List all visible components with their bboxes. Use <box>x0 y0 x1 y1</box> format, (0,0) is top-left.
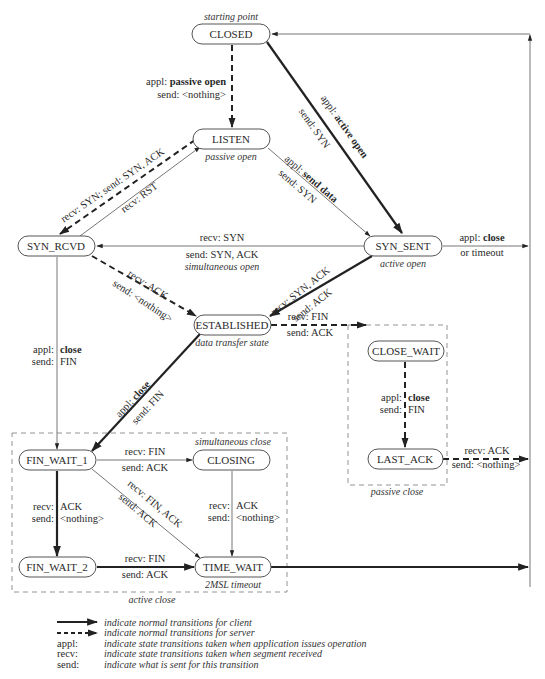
note-simultaneous-close: simultaneous close <box>195 436 271 447</box>
label-synrcvd-finwait1-send-prefix: send: <box>32 356 54 367</box>
label-closewait-lastack-send: FIN <box>408 404 425 415</box>
svg-text:CLOSED: CLOSED <box>210 28 253 40</box>
label-closing-timewait-recv-prefix: recv: <box>209 500 230 511</box>
legend-text-send: indicate what is sent for this transitio… <box>104 659 258 670</box>
state-listen: LISTEN <box>193 129 270 149</box>
label-established-closewait-send: send: ACK <box>287 327 334 338</box>
label-synsent-synrcvd-recv: recv: SYN <box>200 232 245 243</box>
svg-text:ESTABLISHED: ESTABLISHED <box>195 319 268 331</box>
label-finwait1-finwait2-recv-prefix: recv: <box>33 501 54 512</box>
label-synrcvd-finwait1-appl-prefix: appl: <box>33 344 54 355</box>
tcp-state-diagram: CLOSED LISTEN SYN_RCVD SYN_SENT ESTABLIS… <box>0 0 545 679</box>
label-closewait-lastack-appl: close <box>408 392 430 403</box>
legend-key-send: send: <box>57 659 79 670</box>
note-active-close: active close <box>129 594 176 605</box>
label-finwait2-timewait-recv: recv: FIN <box>125 553 166 564</box>
label-synrcvd-listen: recv: RST <box>119 180 160 215</box>
label-closewait-lastack-send-prefix: send: <box>380 404 402 415</box>
label-finwait1-closing-send: send: ACK <box>122 462 169 473</box>
legend: indicate normal transitions for client i… <box>57 617 366 670</box>
label-closewait-lastack-appl-prefix: appl: <box>381 392 402 403</box>
state-closed: CLOSED <box>192 24 270 44</box>
svg-text:FIN_WAIT_2: FIN_WAIT_2 <box>26 561 88 573</box>
label-finwait1-finwait2-send-prefix: send: <box>32 513 54 524</box>
label-finwait1-finwait2-send: <nothing> <box>60 513 104 524</box>
svg-text:CLOSE_WAIT: CLOSE_WAIT <box>372 345 440 357</box>
state-fin-wait-2: FIN_WAIT_2 <box>19 557 96 577</box>
note-starting-point: starting point <box>204 11 258 22</box>
state-established: ESTABLISHED <box>194 315 271 335</box>
state-syn-rcvd: SYN_RCVD <box>18 236 95 256</box>
label-closing-timewait-recv: ACK <box>236 500 259 511</box>
state-last-ack: LAST_ACK <box>368 449 443 469</box>
state-time-wait: TIME_WAIT <box>195 557 271 577</box>
label-closed-listen-appl: appl: passive open <box>146 76 226 87</box>
label-lastack-closed-send: send: <nothing> <box>452 459 521 470</box>
label-closing-timewait-send: <nothing> <box>236 512 280 523</box>
state-syn-sent: SYN_SENT <box>364 236 442 256</box>
svg-text:SYN_RCVD: SYN_RCVD <box>27 240 85 252</box>
label-synrcvd-finwait1-send: FIN <box>60 356 77 367</box>
label-established-closewait-recv: recv: FIN <box>288 311 329 322</box>
svg-text:SYN_SENT: SYN_SENT <box>375 240 430 252</box>
edge-listen-synrcvd <box>60 140 195 234</box>
state-close-wait: CLOSE_WAIT <box>368 341 444 361</box>
edge-closed-synsent <box>267 42 402 233</box>
label-closing-timewait-send-prefix: send: <box>208 512 230 523</box>
label-finwait1-closing-recv: recv: FIN <box>125 446 166 457</box>
label-synsent-synrcvd-send: send: SYN, ACK <box>186 249 259 260</box>
state-closing: CLOSING <box>193 450 270 470</box>
label-synsent-close-extra: or timeout <box>460 247 504 258</box>
svg-text:LAST_ACK: LAST_ACK <box>377 453 433 465</box>
state-fin-wait-1: FIN_WAIT_1 <box>19 450 96 470</box>
legend-text-server: indicate normal transitions for server <box>104 627 255 638</box>
note-data-transfer-state: data transfer state <box>195 337 269 348</box>
svg-text:LISTEN: LISTEN <box>212 133 250 145</box>
label-lastack-closed-recv: recv: ACK <box>464 445 510 456</box>
legend-key-recv: recv: <box>57 648 78 659</box>
note-2msl-timeout: 2MSL timeout <box>205 579 261 590</box>
label-finwait1-finwait2-recv: ACK <box>60 501 83 512</box>
svg-text:FIN_WAIT_1: FIN_WAIT_1 <box>26 454 88 466</box>
svg-text:CLOSING: CLOSING <box>207 454 255 466</box>
label-closed-listen-send: send: <nothing> <box>157 89 226 100</box>
label-finwait2-timewait-send: send: ACK <box>122 569 169 580</box>
note-passive-open: passive open <box>204 151 256 162</box>
note-active-open: active open <box>380 258 426 269</box>
note-simultaneous-open: simultaneous open <box>185 261 260 272</box>
label-synrcvd-finwait1-appl: close <box>60 344 82 355</box>
label-synsent-close-appl: appl: close <box>459 232 505 243</box>
note-passive-close: passive close <box>370 486 424 497</box>
legend-text-recv: indicate state transitions taken when se… <box>104 648 323 659</box>
svg-text:TIME_WAIT: TIME_WAIT <box>203 561 263 573</box>
